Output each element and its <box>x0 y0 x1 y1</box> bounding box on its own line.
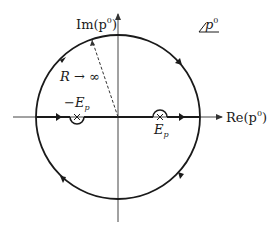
re-axis-label: Re(p0) <box>226 110 267 124</box>
arrow-lower-right-icon <box>178 172 184 179</box>
radius-label: R → ∞ <box>60 70 100 83</box>
arrow-real-right-icon <box>179 113 185 121</box>
plane-label: p0 <box>205 17 218 31</box>
detour-below-neg-pole <box>70 117 84 124</box>
contour-diagram: Im(p0) Re(p0) p0 R → ∞ −Ep Ep <box>0 0 276 230</box>
neg-pole-label: −Ep <box>64 96 90 112</box>
detour-above-pos-pole <box>153 110 167 117</box>
im-axis-label: Im(p0) <box>76 17 117 31</box>
radius-arrow-icon <box>90 40 95 46</box>
arrow-real-left-icon <box>56 113 62 121</box>
pos-pole-label: Ep <box>154 123 169 139</box>
